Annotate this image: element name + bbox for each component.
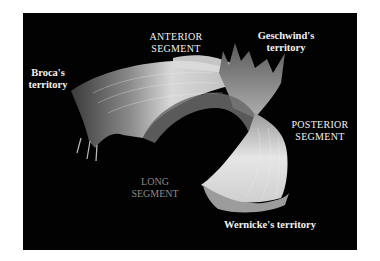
geschwind-label-line2: territory xyxy=(251,42,321,54)
long-label-line1: LONG xyxy=(120,176,190,188)
tractography-figure: Broca's territory ANTERIOR SEGMENT Gesch… xyxy=(23,13,357,250)
wernicke-label-line1: Wernicke's territory xyxy=(220,219,320,231)
long-label-line2: SEGMENT xyxy=(120,188,190,200)
geschwind-label: Geschwind's territory xyxy=(251,30,321,54)
posterior-label-line1: POSTERIOR xyxy=(285,119,355,131)
anterior-segment-label: ANTERIOR SEGMENT xyxy=(141,31,211,55)
anterior-label-line2: SEGMENT xyxy=(141,43,211,55)
posterior-segment-label: POSTERIOR SEGMENT xyxy=(285,119,355,143)
anterior-label-line1: ANTERIOR xyxy=(141,31,211,43)
broca-label-line1: Broca's xyxy=(23,67,78,79)
wernicke-label: Wernicke's territory xyxy=(220,219,320,231)
broca-label: Broca's territory xyxy=(23,67,78,91)
broca-label-line2: territory xyxy=(23,79,78,91)
geschwind-label-line1: Geschwind's xyxy=(251,30,321,42)
long-segment-label: LONG SEGMENT xyxy=(120,176,190,200)
posterior-label-line2: SEGMENT xyxy=(285,131,355,143)
